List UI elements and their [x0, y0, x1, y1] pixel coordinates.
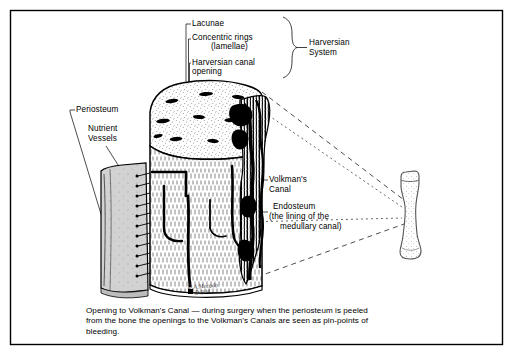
figure-caption: Opening to Volkman's Canal — during surg…	[86, 306, 426, 337]
harversian-system-brace	[283, 17, 307, 78]
whole-long-bone-inset	[400, 171, 421, 259]
label-endosteum-line3: medullary canal)	[280, 222, 342, 232]
label-endosteum-line1: Endosteum	[273, 202, 315, 212]
bone-diagram-illustration	[0, 0, 511, 357]
label-nutrient-vessels-line2: Vessels	[88, 134, 117, 144]
label-lacunae: Lacunae	[192, 19, 224, 29]
label-nutrient-vessels-line1: Nutrient	[88, 124, 117, 134]
periosteum-flap	[101, 163, 148, 298]
label-volkmans-canal-line1: Volkman's	[269, 175, 307, 185]
label-harversian-canal-opening-line2: opening	[192, 67, 222, 77]
caption-line-2: from the bone the openings to the Volkma…	[86, 316, 426, 326]
caption-line-3: bleeding.	[86, 327, 426, 337]
label-harversian-system-line1: Harversian	[309, 38, 350, 48]
label-endosteum-line2: (the lining of the	[269, 212, 329, 222]
label-concentric-rings-line2: (lamellae)	[211, 42, 248, 52]
label-volkmans-canal-line2: Canal	[269, 185, 291, 195]
label-periosteum: Periosteum	[76, 105, 118, 115]
figure-root: Lacunae Concentric rings (lamellae) Harv…	[0, 0, 511, 357]
caption-line-1: Opening to Volkman's Canal — during surg…	[86, 306, 426, 316]
label-harversian-system-line2: System	[309, 48, 337, 58]
